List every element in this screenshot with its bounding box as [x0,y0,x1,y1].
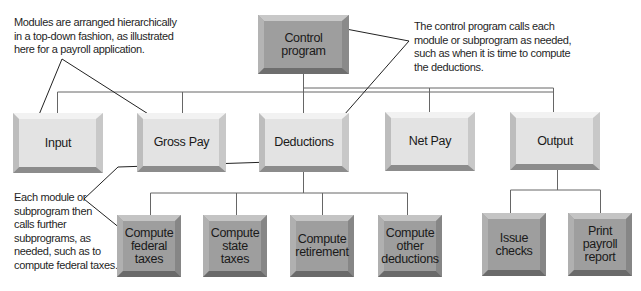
node-net-pay: Net Pay [385,112,475,171]
node-compute-retirement: Compute retirement [290,215,354,277]
annotation-top-left: Modules are arranged hierarchically in a… [14,16,177,57]
node-compute-other-deductions: Compute other deductions [378,215,442,277]
node-label: Print payroll report [583,225,618,264]
payroll-hierarchy-diagram: Modules are arranged hierarchically in a… [0,0,641,291]
node-label: Net Pay [409,135,451,148]
node-label: Control program [281,32,325,58]
node-label: Deductions [274,136,334,149]
node-control-program: Control program [258,15,349,74]
node-label: Output [537,135,573,148]
node-label: Issue checks [495,232,532,258]
node-label: Compute other deductions [381,227,438,266]
node-label: Compute state taxes [211,227,260,266]
node-gross-pay: Gross Pay [137,113,226,172]
node-deductions: Deductions [259,113,349,172]
node-compute-federal-taxes: Compute federal taxes [117,215,181,277]
node-input: Input [13,113,103,173]
node-compute-state-taxes: Compute state taxes [203,215,267,277]
annotation-bottom-left: Each module or subprogram then calls fur… [14,191,118,272]
node-output: Output [510,112,600,170]
node-print-payroll-report: Print payroll report [568,213,632,276]
node-issue-checks: Issue checks [482,213,546,276]
node-label: Gross Pay [154,136,210,149]
node-label: Compute federal taxes [125,227,174,266]
node-label: Compute retirement [295,233,348,259]
annotation-top-right: The control program calls each module or… [414,20,571,74]
node-label: Input [45,137,71,150]
